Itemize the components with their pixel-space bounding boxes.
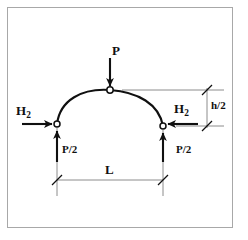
crown-hinge-node <box>107 87 113 93</box>
right-horizontal-reaction-symbol: H <box>174 101 184 116</box>
dimension-ticks <box>52 85 212 185</box>
left-horizontal-reaction-symbol: H <box>16 103 26 118</box>
left-vertical-reaction-label: P/2 <box>62 144 77 155</box>
left-horizontal-reaction-label: H2 <box>16 104 31 120</box>
arch-curve <box>57 90 163 126</box>
hinge-nodes <box>54 87 166 129</box>
apex-load-label: P <box>112 44 120 57</box>
diagram-canvas <box>0 0 248 240</box>
left-hinge-node <box>54 121 60 127</box>
right-horizontal-reaction-subscript: 2 <box>184 108 189 118</box>
dimension-lines <box>57 88 224 196</box>
force-arrows <box>22 58 198 162</box>
right-vertical-reaction-label: P/2 <box>176 144 191 155</box>
right-horizontal-reaction-label: H2 <box>174 102 189 118</box>
left-horizontal-reaction-subscript: 2 <box>26 110 31 120</box>
rise-dimension-label: h/2 <box>211 100 226 111</box>
span-dimension-label: L <box>105 163 114 176</box>
arch-diagram-figure: P H2 H2 P/2 P/2 L h/2 <box>0 0 248 240</box>
right-hinge-node <box>160 123 166 129</box>
